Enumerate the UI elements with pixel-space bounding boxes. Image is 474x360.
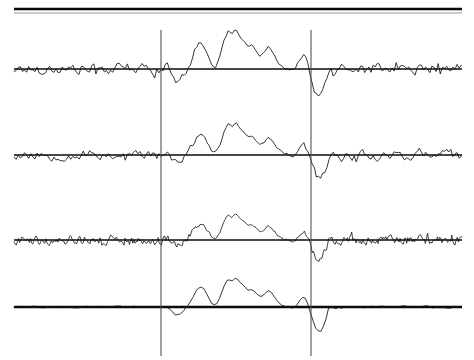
figure-canvas [0,0,474,360]
signal-traces-plot [0,0,474,360]
